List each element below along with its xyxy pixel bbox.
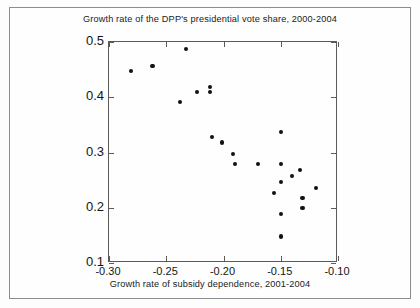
data-point bbox=[150, 64, 154, 68]
x-tick-label: -0.15 bbox=[250, 265, 310, 277]
x-axis-tick bbox=[224, 256, 225, 261]
data-point bbox=[220, 140, 224, 144]
data-point bbox=[210, 135, 214, 139]
data-point bbox=[272, 191, 276, 195]
data-point bbox=[233, 162, 237, 166]
y-tick-label: 0.4 bbox=[62, 88, 104, 103]
data-point bbox=[178, 100, 182, 104]
data-point bbox=[314, 186, 318, 190]
x-axis-tick-top bbox=[166, 42, 167, 47]
data-point bbox=[208, 90, 212, 94]
y-axis-tick-right bbox=[331, 42, 336, 43]
scatter-plot-figure: Growth rate of the DPP's presidential vo… bbox=[0, 0, 420, 308]
data-point bbox=[231, 152, 235, 156]
data-point bbox=[184, 47, 188, 51]
x-axis-tick-top bbox=[281, 42, 282, 47]
plot-area bbox=[108, 41, 337, 262]
x-axis-tick-top bbox=[224, 42, 225, 47]
y-axis-tick-right bbox=[331, 263, 336, 264]
y-tick-label: 0.1 bbox=[62, 254, 104, 269]
y-tick-label: 0.3 bbox=[62, 144, 104, 159]
y-axis-tick bbox=[109, 153, 114, 154]
x-tick-label: -0.25 bbox=[135, 265, 195, 277]
y-axis-tick bbox=[109, 263, 114, 264]
y-axis-tick bbox=[109, 42, 114, 43]
data-point bbox=[290, 174, 294, 178]
x-axis-tick bbox=[166, 256, 167, 261]
x-axis-label: Growth rate of subsidy dependence, 2001-… bbox=[0, 279, 420, 289]
x-axis-tick bbox=[281, 256, 282, 261]
data-point bbox=[256, 162, 260, 166]
y-axis-tick-right bbox=[331, 208, 336, 209]
y-tick-label: 0.5 bbox=[62, 33, 104, 48]
y-axis-tick-right bbox=[331, 97, 336, 98]
data-point bbox=[300, 206, 304, 210]
data-point bbox=[195, 90, 199, 94]
y-axis-tick-right bbox=[331, 153, 336, 154]
x-axis-tick bbox=[338, 256, 339, 261]
data-point bbox=[208, 85, 212, 89]
y-tick-label: 0.2 bbox=[62, 199, 104, 214]
y-axis-tick bbox=[109, 97, 114, 98]
data-point bbox=[300, 196, 304, 200]
data-point bbox=[279, 234, 283, 238]
data-point bbox=[279, 162, 283, 166]
data-point bbox=[279, 212, 283, 216]
y-axis-tick bbox=[109, 208, 114, 209]
chart-title: Growth rate of the DPP's presidential vo… bbox=[0, 14, 420, 24]
data-point bbox=[129, 69, 133, 73]
x-tick-label: -0.10 bbox=[307, 265, 367, 277]
data-point bbox=[279, 130, 283, 134]
x-axis-tick-top bbox=[338, 42, 339, 47]
data-point bbox=[279, 180, 283, 184]
data-point bbox=[298, 168, 302, 172]
x-tick-label: -0.20 bbox=[193, 265, 253, 277]
x-axis-tick bbox=[109, 256, 110, 261]
